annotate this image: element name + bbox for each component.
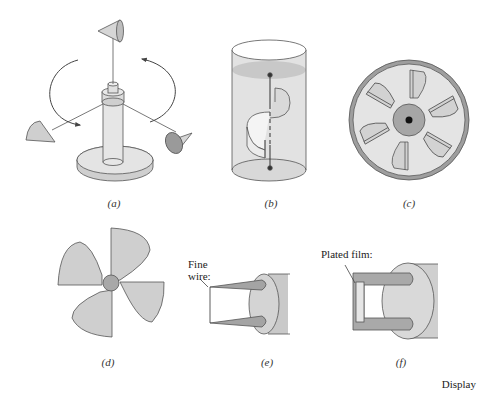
caption-b: (b) bbox=[265, 197, 278, 209]
savonius-rotor-diagram bbox=[232, 40, 306, 181]
propeller-diagram bbox=[58, 228, 164, 337]
caption-c: (c) bbox=[403, 197, 415, 209]
caption-a: (a) bbox=[108, 197, 121, 209]
caption-f: (f) bbox=[396, 356, 406, 368]
fine-wire-label: Fine wire: bbox=[188, 258, 211, 282]
plated-film-label: Plated film: bbox=[321, 248, 373, 260]
fine-wire-label-line2: wire: bbox=[188, 270, 211, 282]
fine-wire-label-line1: Fine bbox=[188, 258, 211, 270]
turbine-flowmeter-diagram bbox=[349, 60, 469, 180]
cup-anemometer-diagram bbox=[26, 20, 192, 181]
caption-e: (e) bbox=[261, 356, 273, 368]
caption-d: (d) bbox=[102, 356, 115, 368]
hot-film-probe-diagram bbox=[345, 263, 438, 339]
hot-wire-probe-diagram bbox=[200, 274, 290, 334]
display-label: Display bbox=[442, 378, 476, 390]
